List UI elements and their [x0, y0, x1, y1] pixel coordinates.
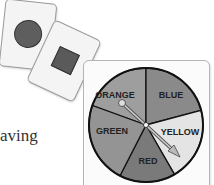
spinner-label-orange: ORANGE	[95, 90, 135, 100]
circle-shape	[13, 19, 44, 50]
spinner: ORANGE BLUE YELLOW RED GREEN	[88, 67, 204, 183]
spinner-pivot	[144, 123, 149, 128]
body-text-fragment: aving	[0, 126, 38, 146]
square-shape	[51, 46, 80, 75]
spinner-label-yellow: YELLOW	[161, 127, 200, 137]
spinner-label-green: GREEN	[96, 126, 128, 136]
spinner-label-blue: BLUE	[159, 90, 184, 100]
spinner-label-red: RED	[138, 156, 158, 166]
